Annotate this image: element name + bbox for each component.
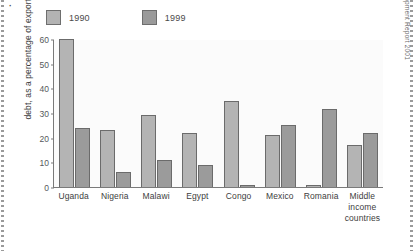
y-tick-label-0: 0 [44, 183, 49, 193]
y-tick-mark-60 [51, 40, 54, 41]
plot-area: 0102030405060 [53, 40, 383, 188]
y-tick-mark-30 [51, 114, 54, 115]
plot-canvas: 0102030405060 [53, 40, 383, 188]
bar-group [260, 40, 301, 187]
legend-item-1990: 1990 [46, 10, 90, 25]
x-axis-label: Middle income countries [342, 191, 383, 224]
legend-label-1990: 1990 [69, 13, 90, 23]
bar-middle-income-countries-1999 [363, 133, 378, 187]
bar-series-container [54, 40, 383, 187]
y-tick-mark-10 [51, 163, 54, 164]
bar-mexico-1990 [265, 135, 280, 187]
x-axis-label: Malawi [136, 191, 177, 224]
bar-romania-1990 [306, 185, 321, 187]
y-tick-mark-40 [51, 89, 54, 90]
bar-malawi-1999 [157, 160, 172, 187]
bar-nigeria-1990 [100, 130, 115, 187]
y-tick-label-60: 60 [40, 35, 49, 45]
corner-mark: · [8, 0, 12, 10]
bar-group [136, 40, 177, 187]
x-axis-label: Nigeria [94, 191, 135, 224]
chart-page: · 1990 1999 debt, as a percentage of exp… [0, 0, 414, 251]
x-axis-labels: UgandaNigeriaMalawiEgyptCongoMexicoRoman… [53, 191, 383, 224]
bar-group [301, 40, 342, 187]
bar-egypt-1990 [182, 133, 197, 187]
bar-middle-income-countries-1990 [347, 145, 362, 187]
left-dotted-border [1, 0, 4, 251]
bar-nigeria-1999 [116, 172, 131, 187]
y-tick-mark-50 [51, 64, 54, 65]
legend-item-1999: 1999 [142, 10, 186, 25]
y-tick-label-50: 50 [40, 60, 49, 70]
y-tick-label-10: 10 [40, 158, 49, 168]
y-tick-mark-20 [51, 138, 54, 139]
x-axis-label: Congo [218, 191, 259, 224]
bar-group [177, 40, 218, 187]
y-tick-label-30: 30 [40, 109, 49, 119]
legend-swatch-1999 [142, 10, 157, 25]
bar-group [219, 40, 260, 187]
bar-congo-1999 [240, 185, 255, 187]
bar-egypt-1999 [198, 165, 213, 187]
source-note: Source: UNDP Human Development Report 20… [404, 0, 411, 60]
chart-legend: 1990 1999 [46, 10, 186, 25]
x-axis-label: Mexico [259, 191, 300, 224]
bar-uganda-1990 [59, 39, 74, 187]
bar-congo-1990 [224, 101, 239, 187]
legend-swatch-1990 [46, 10, 61, 25]
y-tick-label-20: 20 [40, 134, 49, 144]
y-tick-label-40: 40 [40, 84, 49, 94]
bar-uganda-1999 [75, 128, 90, 187]
x-axis-label: Uganda [53, 191, 94, 224]
y-tick-mark-0 [51, 188, 54, 189]
x-axis-label: Egypt [177, 191, 218, 224]
x-axis-label: Romania [301, 191, 342, 224]
bar-romania-1999 [322, 109, 337, 187]
bar-mexico-1999 [281, 125, 296, 187]
bar-group [95, 40, 136, 187]
bar-group [54, 40, 95, 187]
bar-group [342, 40, 383, 187]
legend-label-1999: 1999 [165, 13, 186, 23]
y-axis-title: debt, as a percentage of exports [23, 0, 33, 132]
bar-malawi-1990 [141, 115, 156, 187]
